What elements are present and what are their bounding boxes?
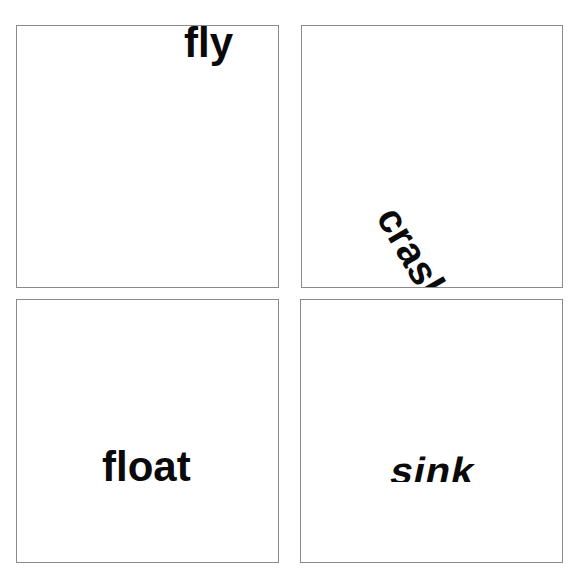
panel-crash: crash: [301, 25, 563, 288]
word-crash: crash: [370, 200, 458, 288]
word-sink: sink: [389, 452, 479, 482]
sink-clip-region: sink: [389, 452, 489, 482]
panel-sink: sink: [300, 299, 563, 563]
panel-float: float: [16, 299, 279, 563]
float-clip-region: float: [97, 446, 207, 482]
panel-fly: fly: [16, 25, 279, 288]
word-fly: fly: [184, 25, 233, 64]
word-float: float: [102, 446, 191, 482]
